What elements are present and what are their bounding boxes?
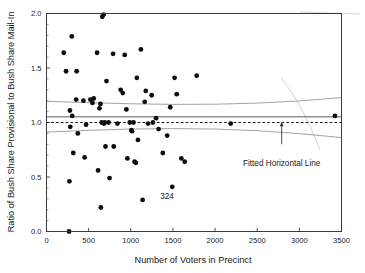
- data-point: [71, 151, 76, 156]
- data-point: [101, 12, 106, 17]
- data-point: [68, 108, 73, 113]
- data-point: [120, 91, 125, 96]
- annotation-text: Fitted Horizontal Line: [243, 159, 321, 168]
- x-tick-label: 1500: [164, 236, 181, 245]
- data-point: [136, 138, 141, 143]
- data-point: [174, 92, 179, 97]
- y-tick-label: 1.0: [31, 118, 42, 127]
- y-tick-label: 0.5: [31, 173, 42, 182]
- data-point: [165, 133, 170, 138]
- y-tick-label: 1.5: [31, 64, 42, 73]
- data-point: [64, 69, 69, 74]
- y-axis-label: Ratio of Bush Share Provisional to Bush …: [6, 12, 16, 233]
- x-tick-label: 2500: [249, 236, 266, 245]
- x-tick-label: 2000: [207, 236, 224, 245]
- x-tick-label: 1000: [122, 236, 139, 245]
- data-point: [82, 155, 87, 160]
- x-tick-label: 3500: [333, 236, 350, 245]
- data-point: [125, 156, 130, 161]
- data-point-label: 324: [160, 192, 174, 201]
- data-point: [134, 75, 139, 80]
- data-point: [154, 116, 159, 121]
- data-point: [84, 122, 89, 127]
- data-point: [143, 88, 148, 93]
- data-point: [156, 127, 161, 132]
- x-tick-label: 0: [44, 236, 48, 245]
- data-point: [81, 98, 86, 103]
- data-point: [111, 51, 116, 56]
- data-point: [172, 75, 177, 80]
- data-point: [122, 53, 127, 58]
- x-tick-label: 3000: [291, 236, 308, 245]
- data-point: [170, 184, 175, 189]
- data-point: [91, 96, 96, 101]
- point-annotation-group: 324: [160, 192, 174, 201]
- chart-canvas: 324 Fitted Horizontal Line 0500100015002…: [0, 0, 365, 273]
- data-point: [150, 120, 155, 125]
- y-tick-label: 2.0: [31, 9, 42, 18]
- y-tick-label: 0.0: [31, 227, 42, 236]
- data-point: [139, 47, 144, 52]
- data-point: [194, 73, 199, 78]
- x-axis-label: Number of Voters in Precinct: [135, 255, 252, 265]
- data-point: [67, 179, 72, 184]
- data-point: [142, 99, 147, 104]
- data-point: [160, 151, 165, 156]
- data-point: [106, 120, 111, 125]
- data-point: [140, 197, 145, 202]
- data-point: [98, 205, 103, 210]
- data-point: [96, 168, 101, 173]
- data-point: [111, 144, 116, 149]
- data-point: [130, 129, 135, 134]
- data-point: [104, 79, 109, 84]
- data-point: [228, 121, 233, 126]
- data-point: [124, 107, 129, 112]
- data-point: [61, 50, 66, 55]
- data-point: [182, 159, 187, 164]
- data-point: [333, 114, 338, 119]
- x-tick-label: 500: [82, 236, 95, 245]
- scatter-plot-figure: 324 Fitted Horizontal Line 0500100015002…: [0, 0, 365, 273]
- data-point: [90, 100, 95, 105]
- data-point: [74, 69, 79, 74]
- data-point: [69, 34, 74, 39]
- data-point: [168, 105, 173, 110]
- data-point: [68, 124, 73, 129]
- data-point: [70, 114, 75, 119]
- data-point: [149, 93, 154, 98]
- data-point: [146, 121, 151, 126]
- data-point: [74, 97, 79, 102]
- plot-background: [0, 0, 365, 273]
- data-point: [97, 106, 102, 111]
- data-point: [75, 131, 80, 136]
- data-point: [98, 102, 103, 107]
- data-point: [107, 176, 112, 181]
- data-point: [131, 120, 136, 125]
- data-point: [115, 121, 120, 126]
- data-point: [95, 50, 100, 55]
- data-point: [133, 160, 138, 165]
- data-point: [103, 144, 108, 149]
